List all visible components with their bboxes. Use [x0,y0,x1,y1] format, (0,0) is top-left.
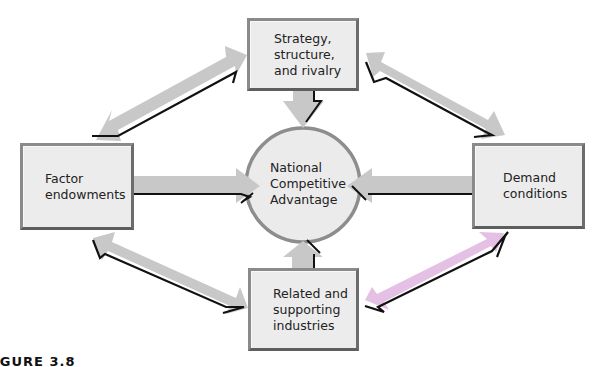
double-arrow-bottom-left [93,232,248,314]
arrow-bottom-to-center [283,240,323,268]
arrow-left-to-center [133,168,260,203]
node-label: Factor endowments [45,171,126,203]
node-related-supporting-industries: Related and supporting industries [248,268,359,351]
node-demand-conditions: Demand conditions [472,143,585,229]
double-arrow-bottom-right [365,232,508,312]
double-arrow-top-left [92,46,247,141]
arrow-top-to-center [283,90,324,128]
node-strategy-structure-rivalry: Strategy, structure, and rivalry [247,18,359,91]
node-label: Related and supporting industries [273,286,348,334]
figure-caption: IGURE 3.8 [0,354,76,367]
node-label: Strategy, structure, and rivalry [274,31,341,79]
double-arrow-top-right [366,52,505,139]
arrow-right-to-center [347,168,472,203]
node-factor-endowments: Factor endowments [20,143,134,230]
center-label: National Competitive Advantage [250,160,360,208]
node-label: Demand conditions [503,170,567,202]
